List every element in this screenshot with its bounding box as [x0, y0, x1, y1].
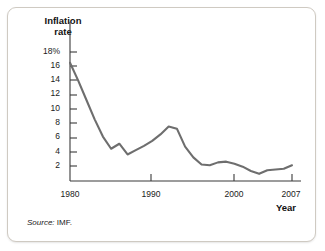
chart-svg	[8, 8, 317, 243]
source-note: Source: IMF.	[27, 218, 72, 227]
source-note-value: IMF.	[57, 218, 72, 227]
x-axis-ticks	[151, 174, 292, 181]
source-note-prefix: Source:	[27, 218, 55, 227]
inflation-rate-line	[70, 63, 292, 174]
chart-figure-card: Inflation rate 18% 16 14 12 10 8 6 4 2 1…	[7, 7, 316, 242]
axis-lines	[70, 22, 301, 181]
chart-plot-area: Inflation rate 18% 16 14 12 10 8 6 4 2 1…	[8, 8, 317, 243]
